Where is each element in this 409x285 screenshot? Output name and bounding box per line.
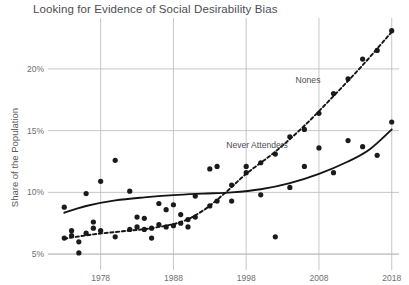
- data-point: [178, 212, 183, 217]
- data-point: [316, 145, 321, 150]
- data-point: [134, 224, 139, 229]
- data-point: [258, 192, 263, 197]
- data-point: [360, 144, 365, 149]
- data-point: [91, 219, 96, 224]
- data-point: [142, 216, 147, 221]
- y-tick-label: 10%: [27, 187, 44, 197]
- data-point: [149, 235, 154, 240]
- y-tick-label: 20%: [27, 64, 44, 74]
- data-point: [98, 179, 103, 184]
- data-point: [134, 214, 139, 219]
- data-point: [69, 228, 74, 233]
- data-point: [164, 207, 169, 212]
- x-tick-label: 2018: [382, 273, 401, 283]
- series-annotations-layer: NonesNever Attenders: [226, 75, 320, 150]
- data-point: [76, 250, 81, 255]
- data-point: [62, 205, 67, 210]
- series-label-never-attenders: Never Attenders: [226, 140, 288, 150]
- data-point: [207, 166, 212, 171]
- series-label-nones: Nones: [296, 75, 321, 85]
- data-point: [375, 153, 380, 158]
- data-point: [360, 56, 365, 61]
- data-point: [156, 201, 161, 206]
- data-point: [302, 164, 307, 169]
- y-tick-label: 15%: [27, 126, 44, 136]
- x-tick-label: 1978: [91, 273, 110, 283]
- data-point: [244, 164, 249, 169]
- y-tick-labels: 5%10%15%20%: [27, 64, 44, 259]
- scatter-plot-canvas: 5%10%15%20% 19781988199820082018 NonesNe…: [0, 0, 409, 285]
- x-tick-label: 1998: [237, 273, 256, 283]
- data-point: [98, 228, 103, 233]
- data-point: [214, 164, 219, 169]
- data-point: [287, 185, 292, 190]
- data-point: [76, 239, 81, 244]
- data-point: [84, 191, 89, 196]
- data-point: [273, 234, 278, 239]
- data-point: [113, 158, 118, 163]
- data-point: [389, 119, 394, 124]
- data-point: [331, 170, 336, 175]
- x-tick-labels: 19781988199820082018: [91, 273, 401, 283]
- trend-lines-layer: [64, 32, 391, 239]
- data-point: [171, 202, 176, 207]
- data-point: [127, 189, 132, 194]
- data-point: [113, 234, 118, 239]
- data-point: [345, 138, 350, 143]
- data-point: [91, 226, 96, 231]
- x-tick-label: 2008: [309, 273, 328, 283]
- data-point: [229, 198, 234, 203]
- x-tick-label: 1988: [164, 273, 183, 283]
- data-point: [185, 224, 190, 229]
- trend-line-nones: [64, 32, 391, 239]
- y-tick-label: 5%: [32, 249, 45, 259]
- chart-figure: Looking for Evidence of Social Desirabil…: [0, 0, 409, 285]
